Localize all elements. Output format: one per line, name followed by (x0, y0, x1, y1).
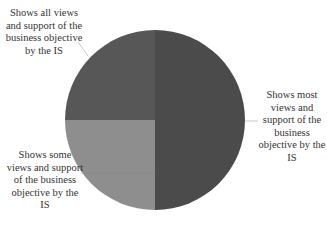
label-most-views: Shows most views and support of the busi… (258, 89, 326, 164)
slice-most (155, 30, 245, 210)
label-some-views: Shows some views and support of the busi… (6, 149, 84, 212)
label-all-views: Shows all views and support of the busin… (4, 7, 84, 57)
